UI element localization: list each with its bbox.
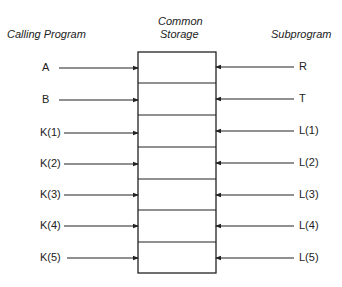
sub-var-l1: L(1) — [299, 124, 319, 137]
common-storage-diagram: Calling Program Common Storage Subprogra… — [0, 0, 342, 287]
calling-var-k2: K(2) — [40, 157, 61, 170]
calling-var-b: B — [42, 93, 49, 106]
sub-var-l3: L(3) — [299, 188, 319, 201]
storage-box — [138, 52, 216, 273]
calling-var-k3: K(3) — [40, 188, 61, 201]
left-arrows — [59, 68, 138, 258]
storage-dividers — [138, 83, 216, 242]
calling-var-k4: K(4) — [40, 219, 61, 232]
right-arrows — [216, 67, 294, 258]
calling-var-k5: K(5) — [40, 251, 61, 264]
sub-var-t: T — [299, 92, 306, 105]
sub-var-l2: L(2) — [299, 156, 319, 169]
calling-var-a: A — [42, 61, 49, 74]
diagram-lines — [0, 0, 342, 287]
sub-var-r: R — [299, 60, 307, 73]
sub-var-l5: L(5) — [299, 251, 319, 264]
calling-var-k1: K(1) — [40, 126, 61, 139]
sub-var-l4: L(4) — [299, 219, 319, 232]
